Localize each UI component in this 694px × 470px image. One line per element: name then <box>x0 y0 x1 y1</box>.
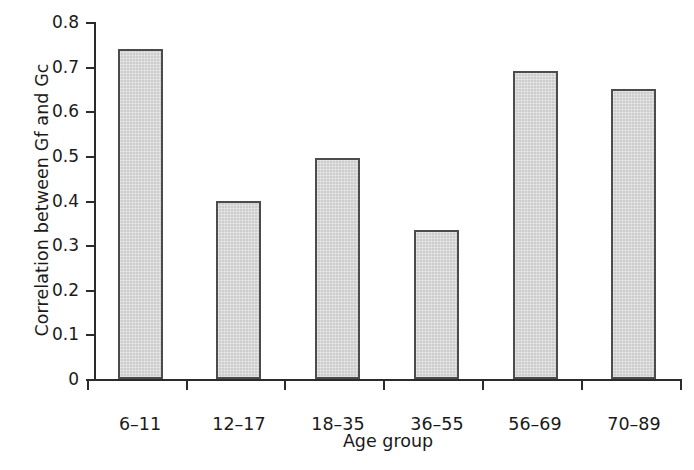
y-axis-tick-label: 0.6 <box>52 101 79 121</box>
y-axis-tick: 0.5 <box>86 156 95 158</box>
bar-6-11[interactable] <box>118 49 163 379</box>
y-axis-tick: 0.1 <box>86 334 95 336</box>
y-axis-tick: 0.3 <box>86 245 95 247</box>
x-axis-tick <box>581 380 583 390</box>
x-axis-tick <box>383 380 385 390</box>
plot-area: 0.8 0.7 0.6 0.5 0.4 0.3 0.2 0.1 0 <box>94 22 682 379</box>
y-axis-tick: 0.6 <box>86 111 95 113</box>
bar-chart-figure: Correlation between Gf and Gc 0.8 0.7 0.… <box>0 0 694 470</box>
y-axis-tick-label: 0.8 <box>52 12 79 32</box>
x-axis-tick <box>87 380 89 390</box>
y-axis-tick: 0.2 <box>86 290 95 292</box>
y-axis-tick: 0.8 <box>86 22 95 24</box>
x-axis-title: Age group <box>94 431 682 451</box>
y-axis-tick-label: 0.7 <box>52 57 79 77</box>
y-axis-tick-label: 0.2 <box>52 280 79 300</box>
bar-36-55[interactable] <box>414 230 459 380</box>
y-axis-tick-label: 0.3 <box>52 235 79 255</box>
y-axis-title: Correlation between Gf and Gc <box>32 10 52 390</box>
bar-56-69[interactable] <box>513 71 558 379</box>
x-axis-tick <box>680 380 682 390</box>
bar-18-35[interactable] <box>315 158 360 379</box>
bar-12-17[interactable] <box>216 201 261 380</box>
y-axis-tick-label: 0 <box>68 369 79 389</box>
y-axis-tick-label: 0.1 <box>52 324 79 344</box>
x-axis-tick <box>186 380 188 390</box>
x-axis-tick <box>284 380 286 390</box>
x-axis-tick <box>482 380 484 390</box>
y-axis-tick: 0.4 <box>86 201 95 203</box>
bar-70-89[interactable] <box>611 89 656 379</box>
y-axis-tick-label: 0.4 <box>52 191 79 211</box>
y-axis-tick: 0.7 <box>86 67 95 69</box>
y-axis-tick-label: 0.5 <box>52 146 79 166</box>
